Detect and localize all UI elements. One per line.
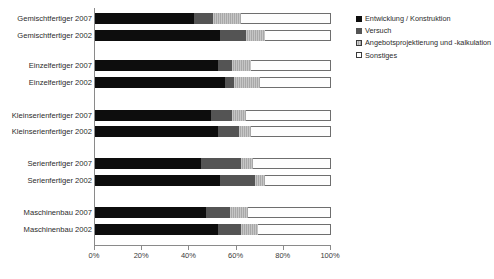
- bar-segment: [248, 207, 331, 218]
- bar-segment: [95, 60, 218, 71]
- legend-item[interactable]: Angebotsprojektierung und -kalkulation: [356, 38, 492, 47]
- bar-segment: [220, 175, 255, 186]
- stacked-bar: [95, 110, 331, 121]
- x-tick-mark: [236, 246, 237, 250]
- category-label: Gemischtfertiger 2007: [0, 13, 92, 24]
- bar-row: Maschinenbau 2007: [0, 207, 494, 218]
- bar-segment: [260, 77, 331, 88]
- category-label: Maschinenbau 2002: [0, 224, 92, 235]
- legend-swatch-icon: [356, 52, 362, 58]
- legend-swatch-icon: [356, 16, 362, 22]
- category-label: Maschinenbau 2007: [0, 207, 92, 218]
- bar-segment: [251, 126, 331, 137]
- x-tick-mark: [283, 246, 284, 250]
- legend-item[interactable]: Entwicklung / Konstruktion: [356, 14, 492, 23]
- bar-segment: [218, 126, 239, 137]
- x-tick-mark: [330, 246, 331, 250]
- bar-segment: [95, 175, 220, 186]
- bar-segment: [225, 77, 234, 88]
- category-label: Einzelfertiger 2007: [0, 60, 92, 71]
- bar-segment: [232, 60, 251, 71]
- stacked-bar: [95, 158, 331, 169]
- chart-legend: Entwicklung / KonstruktionVersuchAngebot…: [356, 14, 492, 63]
- bar-segment: [232, 110, 246, 121]
- bar-segment: [220, 30, 246, 41]
- bar-segment: [213, 13, 241, 24]
- bar-segment: [194, 13, 213, 24]
- bar-segment: [241, 224, 258, 235]
- bar-row: Serienfertiger 2007: [0, 158, 494, 169]
- bar-segment: [95, 158, 201, 169]
- bar-segment: [95, 30, 220, 41]
- bar-row: Kleinserienfertiger 2007: [0, 110, 494, 121]
- x-tick-label: 40%: [168, 251, 208, 260]
- legend-label: Sonstiges: [365, 51, 397, 60]
- x-tick-label: 0%: [74, 251, 114, 260]
- legend-item[interactable]: Versuch: [356, 26, 492, 35]
- bar-segment: [218, 60, 232, 71]
- bar-segment: [234, 77, 260, 88]
- stacked-bar: [95, 207, 331, 218]
- stacked-bar: [95, 224, 331, 235]
- bar-segment: [253, 158, 331, 169]
- bar-segment: [251, 60, 331, 71]
- stacked-bar: [95, 126, 331, 137]
- bar-row: Serienfertiger 2002: [0, 175, 494, 186]
- bar-segment: [241, 13, 331, 24]
- bar-segment: [246, 30, 265, 41]
- bar-row: Kleinserienfertiger 2002: [0, 126, 494, 137]
- bar-segment: [265, 175, 331, 186]
- category-label: Einzelfertiger 2002: [0, 77, 92, 88]
- category-label: Serienfertiger 2002: [0, 175, 92, 186]
- bar-segment: [239, 126, 251, 137]
- bar-segment: [211, 110, 232, 121]
- x-tick-label: 80%: [263, 251, 303, 260]
- legend-swatch-icon: [356, 28, 362, 34]
- bar-segment: [246, 110, 331, 121]
- bar-row: Maschinenbau 2002: [0, 224, 494, 235]
- stacked-bar: [95, 77, 331, 88]
- bar-segment: [95, 207, 206, 218]
- bar-segment: [95, 13, 194, 24]
- bar-segment: [255, 175, 264, 186]
- legend-label: Entwicklung / Konstruktion: [365, 14, 451, 23]
- bar-segment: [241, 158, 253, 169]
- bar-row: Einzelfertiger 2002: [0, 77, 494, 88]
- x-tick-label: 20%: [121, 251, 161, 260]
- category-label: Kleinserienfertiger 2002: [0, 126, 92, 137]
- bar-segment: [218, 224, 242, 235]
- category-label: Kleinserienfertiger 2007: [0, 110, 92, 121]
- bar-segment: [258, 224, 331, 235]
- legend-label: Angebotsprojektierung und -kalkulation: [365, 38, 491, 47]
- bar-segment: [230, 207, 249, 218]
- x-tick-label: 100%: [310, 251, 350, 260]
- x-tick-mark: [141, 246, 142, 250]
- x-tick-mark: [94, 246, 95, 250]
- bar-segment: [265, 30, 331, 41]
- bar-segment: [95, 77, 225, 88]
- x-axis-line: [94, 245, 331, 246]
- stacked-bar: [95, 60, 331, 71]
- stacked-bar: [95, 175, 331, 186]
- legend-swatch-icon: [356, 40, 362, 46]
- category-label: Serienfertiger 2007: [0, 158, 92, 169]
- legend-label: Versuch: [365, 26, 391, 35]
- bar-segment: [95, 110, 211, 121]
- stacked-bar: [95, 13, 331, 24]
- stacked-bar-chart: 0%20%40%60%80%100% Gemischtfertiger 2007…: [0, 0, 494, 279]
- bar-segment: [95, 224, 218, 235]
- x-tick-mark: [188, 246, 189, 250]
- legend-item[interactable]: Sonstiges: [356, 51, 492, 60]
- category-label: Gemischtfertiger 2002: [0, 30, 92, 41]
- stacked-bar: [95, 30, 331, 41]
- bar-segment: [206, 207, 230, 218]
- bar-segment: [201, 158, 241, 169]
- bar-segment: [95, 126, 218, 137]
- x-tick-label: 60%: [216, 251, 256, 260]
